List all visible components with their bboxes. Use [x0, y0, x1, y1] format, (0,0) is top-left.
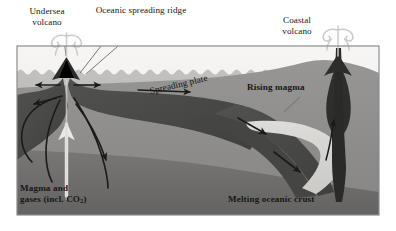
- magma-line-2-pre: gases (incl. CO: [20, 194, 80, 204]
- co2-subscript: 2: [80, 197, 83, 204]
- label-rising-magma: Rising magma: [247, 82, 305, 93]
- label-undersea-volcano: Undersea volcano: [16, 6, 78, 27]
- magma-line-2-post: ): [84, 194, 87, 204]
- plate-tectonics-figure: Undersea volcano Oceanic spreading ridge…: [0, 0, 396, 231]
- label-melting-oceanic-crust: Melting oceanic crust: [228, 194, 315, 205]
- undersea-plume-icon: [52, 33, 82, 57]
- label-oceanic-spreading-ridge: Oceanic spreading ridge: [89, 5, 193, 16]
- magma-line-1: Magma and: [20, 183, 68, 193]
- label-coastal-volcano: Coastal volcano: [268, 15, 326, 36]
- label-magma-and-gases: Magma andgases (incl. CO2): [20, 183, 124, 205]
